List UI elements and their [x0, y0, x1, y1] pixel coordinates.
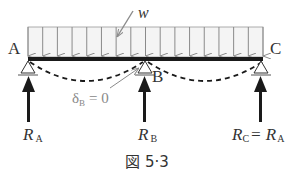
- label-c: C: [270, 39, 281, 58]
- distributed-load: [28, 27, 263, 57]
- w-label: w: [138, 4, 149, 21]
- support-c: [251, 61, 271, 75]
- label-a: A: [8, 39, 21, 58]
- deflection-curve-bc: [148, 62, 262, 81]
- support-a: [18, 61, 38, 75]
- beam-diagram-figure: w A B C δB= 0: [0, 0, 295, 181]
- figure-caption: 図 5·3: [125, 153, 169, 171]
- reaction-arrow-a: [22, 76, 35, 122]
- reaction-label-b: RB: [137, 125, 157, 144]
- reaction-label-c: RC= RA: [231, 125, 285, 144]
- beam: [28, 57, 263, 61]
- reaction-arrow-c: [254, 76, 267, 122]
- deflection-leader: [110, 68, 139, 88]
- reaction-arrow-b: [138, 76, 151, 122]
- label-b: B: [152, 67, 163, 86]
- deflection-curve-ab: [30, 62, 143, 81]
- reaction-label-a: RA: [22, 125, 43, 144]
- deflection-label: δB= 0: [72, 90, 109, 108]
